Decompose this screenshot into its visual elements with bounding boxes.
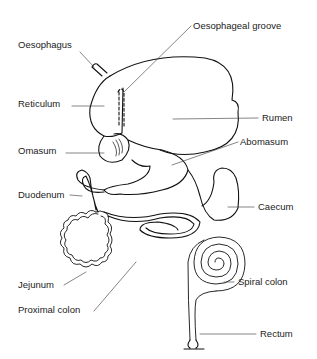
spiral-colon-shape (188, 237, 245, 340)
label-omasum: Omasum (18, 146, 57, 156)
label-rumen: Rumen (262, 113, 293, 123)
label-proximal-colon: Proximal colon (18, 305, 80, 315)
rectum-shape (184, 340, 204, 349)
label-abomasum: Abomasum (240, 137, 288, 147)
label-duodenum: Duodenum (18, 190, 64, 200)
label-jejunum: Jejunum (18, 280, 54, 290)
oesophagus-shape (92, 64, 107, 76)
omasum-shape (99, 134, 129, 163)
label-oesophagus: Oesophagus (18, 40, 72, 50)
proximal-colon-shape (104, 212, 200, 238)
label-spiral-colon: Spiral colon (238, 277, 288, 287)
label-rectum: Rectum (260, 329, 293, 339)
label-oesophageal-groove: Oesophageal groove (193, 21, 281, 31)
label-caecum: Caecum (258, 202, 293, 212)
duodenum-shape (77, 170, 104, 212)
caecum-shape (188, 168, 239, 220)
jejunum-shape (60, 210, 112, 267)
label-reticulum: Reticulum (18, 99, 60, 109)
rumen-shape (110, 57, 238, 155)
abomasum-shape (104, 140, 188, 195)
